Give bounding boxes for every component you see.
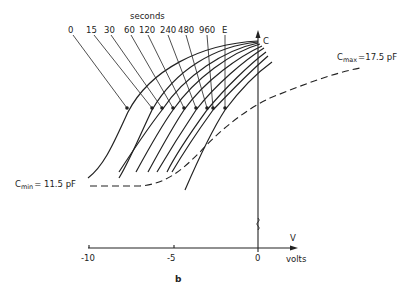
series-curves bbox=[88, 41, 272, 190]
series-label-0: 0 bbox=[68, 25, 73, 35]
v-axis-label: V bbox=[290, 233, 296, 243]
curve-120 bbox=[148, 46, 262, 172]
seconds-title: seconds bbox=[130, 11, 165, 21]
tick-label-m10: -10 bbox=[81, 253, 95, 263]
panel-label: b bbox=[175, 274, 182, 284]
series-label-15: 15 bbox=[86, 25, 97, 35]
cv-curve-chart: seconds 0 15 30 60 120 240 480 960 E C V… bbox=[0, 0, 398, 293]
series-label-60: 60 bbox=[124, 25, 135, 35]
series-label-240: 240 bbox=[160, 25, 176, 35]
cmin-annotation: Cmin= 11.5 pF bbox=[15, 179, 76, 191]
tick-label-m5: -5 bbox=[167, 253, 175, 263]
c-axis-arrow bbox=[256, 30, 261, 38]
v-axis-arrow bbox=[290, 246, 298, 251]
cmax-annotation: Cmax=17.5 pF bbox=[337, 52, 397, 64]
c-axis-label: C bbox=[263, 36, 269, 46]
volts-label: volts bbox=[286, 254, 307, 264]
series-label-E: E bbox=[222, 25, 227, 35]
series-label-480: 480 bbox=[178, 25, 194, 35]
tick-label-0: 0 bbox=[255, 253, 260, 263]
series-label-120: 120 bbox=[139, 25, 155, 35]
leader-lines bbox=[73, 35, 225, 108]
curve-15 bbox=[119, 42, 258, 178]
series-label-30: 30 bbox=[104, 25, 115, 35]
series-label-960: 960 bbox=[199, 25, 215, 35]
curve-960 bbox=[172, 56, 268, 172]
curve-30 bbox=[119, 43, 258, 172]
